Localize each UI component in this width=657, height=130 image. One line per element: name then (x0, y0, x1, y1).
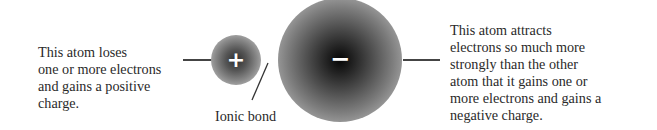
anion-description-line: electrons so much more (450, 39, 601, 56)
ionic-bond-label: Ionic bond (215, 108, 276, 125)
anion-description-line: atom that it gains one or (450, 73, 601, 90)
anion-description: This atom attractselectrons so much more… (450, 5, 601, 130)
anion-description-line: strongly than the other (450, 56, 601, 73)
anion-description-line: negative charge. (450, 107, 601, 124)
anion-description-line: more electrons and gains a (450, 90, 601, 107)
anion-description-line: This atom attracts (450, 22, 601, 39)
